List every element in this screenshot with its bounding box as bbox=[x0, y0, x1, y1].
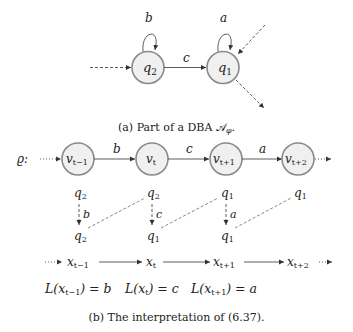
run-edge-label: b bbox=[113, 142, 121, 156]
transition-label: b bbox=[83, 208, 90, 221]
diagonal-dashed-link bbox=[88, 198, 145, 228]
labeling-equation: L(xt) = c bbox=[124, 281, 179, 297]
labeling-equation: L(xt+1) = a bbox=[190, 281, 257, 297]
run-edge-label: a bbox=[259, 142, 266, 156]
run-edge-label: c bbox=[186, 142, 193, 156]
upper-state-label: q1 bbox=[294, 186, 307, 201]
figure-b: ϱ: vt−1 b vt c vt+1 a vt+2 q2 q2 q1 q1 b… bbox=[17, 142, 332, 324]
edge-label-c: c bbox=[183, 51, 190, 65]
lower-state-label: q2 bbox=[74, 229, 87, 244]
transition-label: a bbox=[230, 208, 237, 221]
upper-state-label: q1 bbox=[221, 186, 234, 201]
outgoing-dashed-arrow-q1 bbox=[236, 80, 264, 108]
incoming-dashed-arrow-q1 bbox=[238, 25, 265, 54]
upper-state-label: q2 bbox=[147, 186, 160, 201]
upper-state-label: q2 bbox=[74, 186, 87, 201]
x-node-label: xt+2 bbox=[287, 255, 309, 270]
self-loop-label-a: a bbox=[220, 11, 227, 25]
self-loop-q1 bbox=[218, 34, 231, 51]
transition-label: c bbox=[156, 208, 162, 221]
diagonal-dashed-link bbox=[161, 198, 218, 228]
lower-state-label: q1 bbox=[221, 229, 234, 244]
diagram-canvas: q2 b c q1 a (a) Part of a DBA 𝒜φ. ϱ: vt−… bbox=[0, 0, 353, 332]
run-label: ϱ: bbox=[17, 152, 28, 166]
x-node-label: xt bbox=[146, 255, 157, 270]
figure-a: q2 b c q1 a (a) Part of a DBA 𝒜φ. bbox=[90, 11, 265, 135]
diagonal-dashed-link bbox=[235, 198, 291, 228]
x-node-label: xt−1 bbox=[67, 255, 89, 270]
x-node-label: xt+1 bbox=[213, 255, 235, 270]
lower-state-label: q1 bbox=[147, 229, 160, 244]
self-loop-q2 bbox=[143, 34, 156, 51]
caption-b: (b) The interpretation of (6.37). bbox=[88, 311, 264, 324]
labeling-equation: L(xt−1) = b bbox=[44, 281, 112, 297]
caption-a: (a) Part of a DBA 𝒜φ. bbox=[118, 121, 235, 135]
self-loop-label-b: b bbox=[145, 11, 153, 25]
